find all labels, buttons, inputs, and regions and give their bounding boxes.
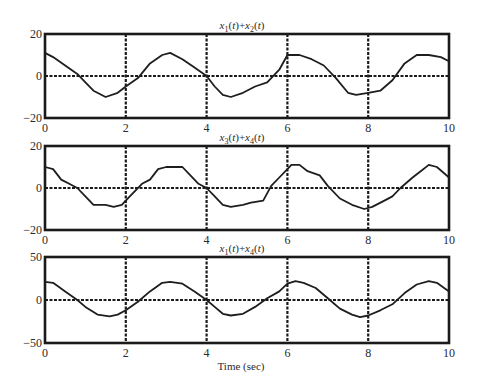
x-tick-label: 0 [42,346,48,360]
x-tick-label: 8 [365,233,371,247]
y-tick-label: −50 [23,336,42,350]
x-tick-label: 10 [443,233,455,247]
subplot-1: 200−200246810x1(t)+x2(t) [23,19,455,135]
figure: 200−200246810x1(t)+x2(t)200−200246810x3(… [0,0,479,391]
x-tick-label: 10 [443,121,455,135]
x-tick-label: 0 [42,121,48,135]
x-tick-label: 2 [123,346,129,360]
x-tick-label: 10 [443,346,455,360]
x-tick-label: 4 [204,121,210,135]
x-tick-label: 6 [284,121,290,135]
subplot-2: 200−200246810x3(t)+x4(t) [23,131,455,247]
x-tick-label: 8 [365,346,371,360]
y-tick-label: 0 [36,293,42,307]
x-tick-label: 0 [42,233,48,247]
y-tick-label: 50 [30,250,42,264]
subplot-title: x3(t)+x4(t) [219,131,265,146]
x-tick-label: 6 [284,346,290,360]
x-tick-label: 6 [284,233,290,247]
subplots: 200−200246810x1(t)+x2(t)200−200246810x3(… [23,19,455,360]
x-tick-label: 2 [123,121,129,135]
subplot-title: x1(t)+x4(t) [219,242,265,257]
y-tick-label: 20 [30,139,42,153]
x-tick-label: 4 [204,346,210,360]
y-tick-label: 0 [36,181,42,195]
x-tick-label: 4 [204,233,210,247]
y-tick-label: −20 [23,111,42,125]
y-tick-label: 0 [36,69,42,83]
subplot-3: 500−500246810x1(t)+x4(t) [23,242,455,360]
x-tick-label: 8 [365,121,371,135]
y-tick-label: −20 [23,223,42,237]
y-tick-label: 20 [30,27,42,41]
x-tick-label: 2 [123,233,129,247]
subplot-title: x1(t)+x2(t) [219,19,265,34]
x-axis-label: Time (sec) [218,360,265,373]
